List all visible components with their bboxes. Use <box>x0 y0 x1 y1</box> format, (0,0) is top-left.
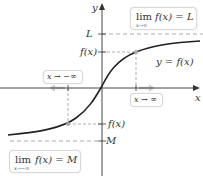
lim-text: lim <box>136 11 152 22</box>
box-x-neg-inf: x → −∞ <box>43 70 83 84</box>
lim-text: lim <box>15 154 31 165</box>
lim-subscript: x→−∞ <box>14 165 29 171</box>
lim-expression: f(x) = L <box>155 11 194 22</box>
x-pos-inf-text: x → ∞ <box>134 95 157 104</box>
lim-subscript: x→∞ <box>136 22 147 28</box>
point-upper <box>134 50 138 54</box>
label-fx-upper: f(x) <box>80 47 97 57</box>
box-limit-M: lim x→−∞ f(x) = M <box>9 150 81 173</box>
label-L: L <box>86 29 93 39</box>
y-axis-label: y <box>92 3 98 13</box>
x-neg-inf-text: x → −∞ <box>47 72 77 81</box>
point-lower <box>66 122 70 126</box>
x-axis-label: x <box>195 93 201 103</box>
y-axis-arrow-icon <box>99 3 105 10</box>
label-curve: y = f(x) <box>156 57 194 67</box>
label-fx-lower: f(x) <box>108 119 125 129</box>
x-axis-arrow-icon <box>193 85 200 91</box>
lim-expression: f(x) = M <box>35 154 77 165</box>
label-M: M <box>106 136 116 146</box>
box-x-pos-inf: x → ∞ <box>130 93 163 107</box>
box-limit-L: lim x→∞ f(x) = L <box>130 7 197 30</box>
